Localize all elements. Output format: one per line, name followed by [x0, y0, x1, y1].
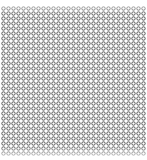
ring-dot — [62, 17, 65, 20]
ring-dot — [102, 142, 105, 145]
ring-dot — [2, 47, 5, 50]
ring-dot — [7, 72, 10, 75]
ring-dot — [12, 122, 15, 125]
ring-dot — [42, 27, 45, 30]
ring-dot — [87, 57, 90, 60]
ring-dot — [97, 27, 100, 30]
ring-dot — [12, 72, 15, 75]
ring-dot — [102, 37, 105, 40]
ring-dot — [87, 52, 90, 55]
ring-dot — [107, 32, 110, 35]
ring-dot — [17, 102, 20, 105]
ring-dot — [117, 102, 120, 105]
ring-dot — [47, 92, 50, 95]
ring-dot — [117, 22, 120, 25]
ring-dot — [57, 82, 60, 85]
ring-dot — [87, 7, 90, 10]
ring-dot — [47, 42, 50, 45]
ring-dot — [67, 52, 70, 55]
ring-dot — [62, 12, 65, 15]
ring-dot — [32, 152, 35, 155]
ring-dot — [42, 112, 45, 115]
ring-dot — [132, 77, 135, 80]
ring-dot — [132, 47, 135, 50]
ring-dot — [137, 92, 140, 95]
ring-dot — [52, 102, 55, 105]
ring-dot — [97, 62, 100, 65]
ring-dot — [22, 97, 25, 100]
ring-dot — [117, 122, 120, 125]
ring-dot — [77, 7, 80, 10]
ring-dot — [67, 87, 70, 90]
ring-dot — [127, 92, 130, 95]
ring-dot — [67, 7, 70, 10]
ring-dot — [72, 62, 75, 65]
ring-dot — [22, 127, 25, 130]
ring-dot — [132, 127, 135, 130]
ring-dot — [87, 152, 90, 155]
ring-dot — [37, 52, 40, 55]
ring-dot — [7, 62, 10, 65]
ring-dot — [142, 32, 145, 35]
ring-dot — [17, 57, 20, 60]
ring-dot — [77, 97, 80, 100]
ring-dot — [142, 147, 145, 150]
ring-dot — [67, 57, 70, 60]
ring-dot — [57, 107, 60, 110]
ring-dot — [32, 132, 35, 135]
ring-dot — [67, 32, 70, 35]
ring-dot — [127, 97, 130, 100]
ring-dot — [77, 67, 80, 70]
ring-dot — [32, 107, 35, 110]
ring-dot — [112, 132, 115, 135]
ring-dot — [112, 7, 115, 10]
ring-dot — [32, 112, 35, 115]
ring-dot — [102, 112, 105, 115]
ring-dot — [52, 17, 55, 20]
ring-dot — [137, 32, 140, 35]
ring-dot — [82, 32, 85, 35]
ring-dot — [117, 152, 120, 155]
ring-dot — [92, 72, 95, 75]
ring-dot — [102, 77, 105, 80]
ring-dot — [72, 102, 75, 105]
ring-dot — [132, 142, 135, 145]
ring-dot — [12, 107, 15, 110]
ring-dot — [57, 7, 60, 10]
ring-dot — [122, 12, 125, 15]
ring-dot — [132, 137, 135, 140]
ring-dot — [37, 57, 40, 60]
ring-dot — [127, 7, 130, 10]
ring-dot — [107, 117, 110, 120]
ring-dot — [27, 97, 30, 100]
ring-dot — [57, 127, 60, 130]
ring-dot — [97, 107, 100, 110]
ring-dot — [22, 142, 25, 145]
ring-dot — [32, 47, 35, 50]
ring-dot — [57, 37, 60, 40]
ring-dot — [112, 127, 115, 130]
ring-dot — [142, 17, 145, 20]
ring-dot — [87, 72, 90, 75]
ring-dot — [52, 87, 55, 90]
ring-dot — [97, 32, 100, 35]
ring-dot — [47, 107, 50, 110]
ring-dot — [72, 42, 75, 45]
ring-dot — [37, 107, 40, 110]
ring-dot — [27, 87, 30, 90]
ring-dot — [112, 152, 115, 155]
ring-dot — [77, 142, 80, 145]
ring-dot — [127, 12, 130, 15]
ring-dot — [7, 17, 10, 20]
ring-dot — [122, 47, 125, 50]
ring-dot — [22, 87, 25, 90]
ring-dot — [7, 77, 10, 80]
ring-dot — [47, 57, 50, 60]
ring-dot — [82, 7, 85, 10]
ring-dot — [132, 52, 135, 55]
ring-dot — [92, 32, 95, 35]
ring-dot — [102, 27, 105, 30]
ring-dot — [97, 42, 100, 45]
ring-dot — [117, 77, 120, 80]
ring-dot — [2, 82, 5, 85]
